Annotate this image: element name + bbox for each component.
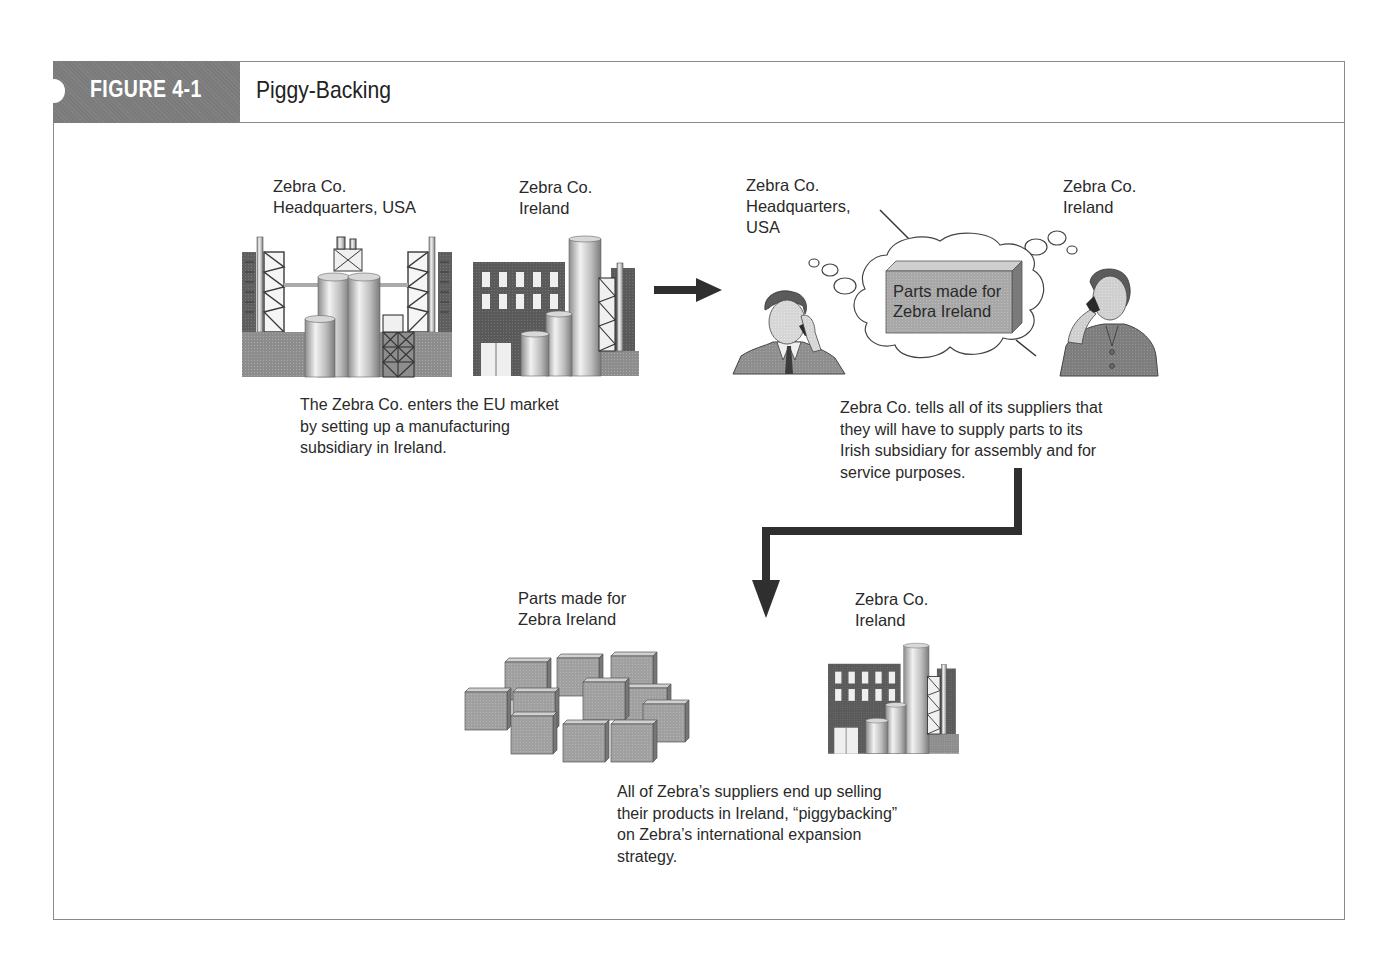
businessman-on-phone-icon (733, 288, 848, 376)
caption-3: All of Zebra’s suppliers end up selling … (617, 781, 897, 867)
caption-1: The Zebra Co. enters the EU market by se… (300, 394, 559, 459)
figure-header (53, 61, 1345, 123)
ireland-label-3: Zebra Co. Ireland (855, 589, 928, 631)
factory-building-icon (473, 236, 639, 376)
ireland-label-2: Zebra Co. Ireland (1063, 176, 1136, 218)
stacked-boxes-icon (465, 652, 690, 758)
factory-building-icon-small (828, 642, 959, 755)
arrow-right-icon (654, 276, 724, 304)
ireland-label-1: Zebra Co. Ireland (519, 177, 592, 219)
figure-number-label: FIGURE 4-1 (90, 76, 202, 103)
hq-label-1: Zebra Co. Headquarters, USA (273, 176, 416, 218)
box-label: Parts made for Zebra Ireland (893, 281, 1001, 321)
parts-label: Parts made for Zebra Ireland (518, 588, 626, 630)
businesswoman-on-phone-icon (1060, 266, 1160, 378)
figure-title: Piggy-Backing (256, 76, 391, 104)
factory-complex-icon (242, 237, 452, 377)
tab-notch (43, 79, 65, 103)
